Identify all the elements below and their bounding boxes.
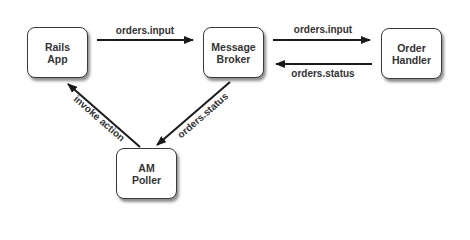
node-label-line2: Broker xyxy=(217,53,251,65)
edge-broker-to-poller xyxy=(157,82,230,145)
edge-label-rails-to-broker: orders.input xyxy=(116,25,175,36)
node-label-line2: Poller xyxy=(132,174,161,186)
node-rails-app: Rails App xyxy=(27,27,88,78)
node-label-line2: Handler xyxy=(392,54,431,66)
node-message-broker: Message Broker xyxy=(203,27,264,78)
edge-label-broker-to-handler: orders.input xyxy=(294,24,353,35)
node-am-poller: AM Poller xyxy=(116,148,177,199)
node-order-handler: Order Handler xyxy=(381,28,442,79)
node-label-line1: Order xyxy=(397,42,426,54)
edge-label-handler-to-broker: orders.status xyxy=(291,68,355,79)
node-label-line1: Message xyxy=(211,41,255,53)
edge-label-poller-to-rails: invoke action xyxy=(72,93,127,143)
node-label-line2: App xyxy=(47,53,67,65)
edge-label-broker-to-poller: orders.status xyxy=(175,90,230,140)
node-label-line1: AM xyxy=(138,162,154,174)
node-label-line1: Rails xyxy=(45,41,70,53)
